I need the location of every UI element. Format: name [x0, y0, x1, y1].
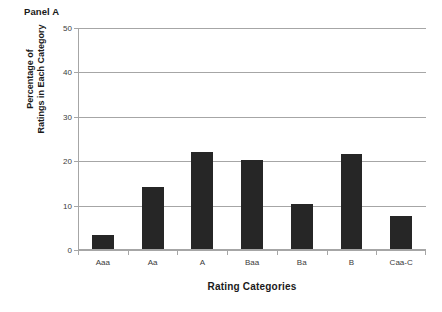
x-axis-label-ba: Ba [277, 258, 327, 267]
bar-slot-aa [128, 28, 178, 250]
x-tick-mark-6 [376, 250, 377, 255]
x-tick-mark-5 [327, 250, 328, 255]
x-axis-tick-marks [78, 250, 426, 255]
y-tick-label-20: 20 [63, 157, 72, 166]
bar-series [78, 28, 426, 250]
x-tick-mark-3 [227, 250, 228, 255]
x-tick-cell-aaa [78, 250, 128, 255]
x-tick-mark-7 [425, 250, 426, 255]
x-tick-cell-aa [128, 250, 178, 255]
y-tick-label-10: 10 [63, 201, 72, 210]
x-axis-tick-labels: AaaAaABaaBaBCaa-C [78, 258, 426, 267]
x-tick-mark-0 [78, 250, 79, 255]
x-axis-title: Rating Categories [78, 281, 426, 292]
bar-slot-aaa [78, 28, 128, 250]
y-axis-title-line-1: Percentage of [25, 49, 37, 109]
bar-slot-b [327, 28, 377, 250]
bar-aa[interactable] [142, 187, 164, 250]
x-tick-mark-4 [277, 250, 278, 255]
x-tick-cell-baa [227, 250, 277, 255]
plot-area: 01020304050 [78, 28, 426, 250]
y-tick-label-40: 40 [63, 68, 72, 77]
y-tick-label-50: 50 [63, 24, 72, 33]
bar-slot-ba [277, 28, 327, 250]
y-axis-title-line-2: Ratings in Each Category [36, 24, 48, 133]
y-axis-title: Percentage of Ratings in Each Category [21, 0, 51, 159]
bar-b[interactable] [341, 154, 363, 250]
x-tick-cell-a [177, 250, 227, 255]
bar-caa-c[interactable] [390, 216, 412, 250]
bar-slot-caa-c [376, 28, 426, 250]
x-axis-label-baa: Baa [227, 258, 277, 267]
x-axis-label-caa-c: Caa-C [376, 258, 426, 267]
bar-slot-a [177, 28, 227, 250]
chart-figure: Panel A Percentage of Ratings in Each Ca… [0, 0, 442, 312]
x-axis-label-a: A [177, 258, 227, 267]
bar-slot-baa [227, 28, 277, 250]
bar-a[interactable] [191, 152, 213, 250]
x-tick-cell-caa-c [376, 250, 426, 255]
bar-baa[interactable] [241, 160, 263, 250]
x-tick-mark-1 [128, 250, 129, 255]
x-axis-label-aaa: Aaa [78, 258, 128, 267]
y-tick-label-0: 0 [68, 246, 72, 255]
x-axis-label-aa: Aa [128, 258, 178, 267]
x-tick-cell-b [327, 250, 377, 255]
x-tick-mark-2 [177, 250, 178, 255]
bar-aaa[interactable] [92, 235, 114, 250]
bar-ba[interactable] [291, 204, 313, 250]
y-tick-label-30: 30 [63, 112, 72, 121]
x-tick-cell-ba [277, 250, 327, 255]
x-axis-label-b: B [327, 258, 377, 267]
